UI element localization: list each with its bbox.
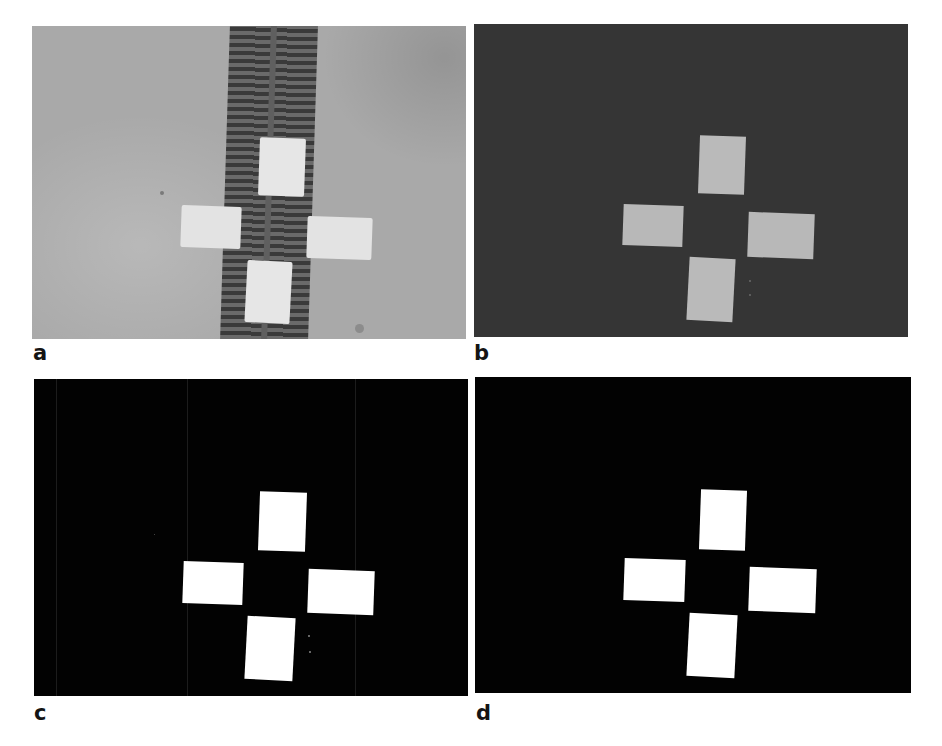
panel-label-a: a <box>33 343 47 364</box>
noise-dot <box>154 534 155 535</box>
marker-left <box>180 205 241 249</box>
column-artifact <box>355 379 356 696</box>
noise-dot <box>749 294 751 296</box>
marker-right <box>306 216 372 260</box>
marker-top <box>258 491 307 552</box>
marker-bottom <box>244 260 292 324</box>
marker-top <box>698 135 746 195</box>
marker-left <box>622 204 683 247</box>
speck <box>160 191 164 195</box>
marker-top <box>699 489 747 551</box>
marker-right <box>307 569 374 615</box>
marker-right <box>748 567 816 613</box>
marker-top <box>258 137 306 197</box>
column-artifact <box>56 379 57 696</box>
column-artifact <box>187 379 188 696</box>
panel-label-d: d <box>476 703 491 724</box>
panel-b-segmented <box>474 24 908 337</box>
marker-left <box>623 558 685 602</box>
marker-bottom <box>686 257 735 322</box>
marker-bottom <box>686 613 737 678</box>
panel-a-photo <box>32 26 466 339</box>
panel-label-b: b <box>474 343 489 364</box>
panel-d-cleaned-mask <box>475 377 911 693</box>
marker-bottom <box>244 616 295 681</box>
marker-left <box>182 561 243 605</box>
speck <box>355 324 364 333</box>
noise-dot <box>308 635 310 637</box>
marker-right <box>747 212 815 259</box>
noise-dot <box>309 651 311 653</box>
noise-dot <box>749 280 751 282</box>
panel-c-binary-mask <box>34 379 468 696</box>
panel-label-c: c <box>34 703 46 724</box>
